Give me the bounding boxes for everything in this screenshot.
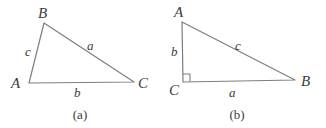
triangle-figure: B A C c a b A C B b c a (a) (b) — [0, 0, 326, 128]
caption-a: (a) — [40, 108, 120, 121]
right-angle-marker-icon — [183, 74, 190, 81]
side-label-a: a — [87, 39, 94, 52]
vertex-label-c: C — [138, 76, 148, 91]
vertex-label-b: B — [301, 74, 310, 89]
side-label-c: c — [25, 45, 31, 58]
vertex-label-a: A — [11, 76, 20, 91]
caption-b: (b) — [197, 108, 277, 121]
vertex-label-c: C — [169, 83, 179, 98]
vertex-label-a: A — [174, 5, 183, 20]
side-label-a: a — [229, 86, 236, 99]
side-label-b: b — [74, 86, 81, 99]
side-label-c: c — [235, 39, 241, 52]
side-label-b: b — [171, 45, 178, 58]
triangle-a-outline — [29, 23, 134, 83]
vertex-label-b: B — [38, 6, 47, 21]
